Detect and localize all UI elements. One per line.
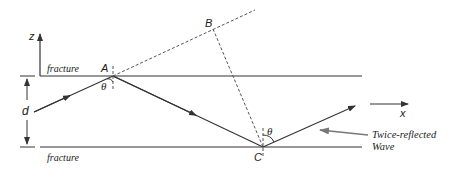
reflected-ray — [113, 76, 263, 147]
angle-a-label: θ — [101, 80, 107, 92]
top-fracture-label: fracture — [47, 63, 79, 74]
angle-c-label: θ — [267, 125, 273, 137]
bottom-fracture-label: fracture — [47, 152, 79, 163]
annotation-line-2: Wave — [372, 141, 395, 152]
point-c-label: C — [254, 151, 262, 163]
z-axis-label: z — [28, 30, 35, 42]
wave-reflection-diagram: z fracture fracture d A B C θ θ x T — [0, 0, 455, 170]
annotation-arrow — [320, 130, 368, 135]
point-a-label: A — [100, 62, 108, 74]
angle-arc-a — [107, 79, 113, 82]
x-axis-label: x — [399, 107, 406, 119]
thickness-label: d — [22, 104, 29, 118]
point-b-label: B — [205, 17, 212, 29]
annotation-line-1: Twice-reflected — [372, 129, 437, 140]
twice-reflected-ray — [263, 106, 355, 147]
construction-lines — [113, 10, 263, 156]
